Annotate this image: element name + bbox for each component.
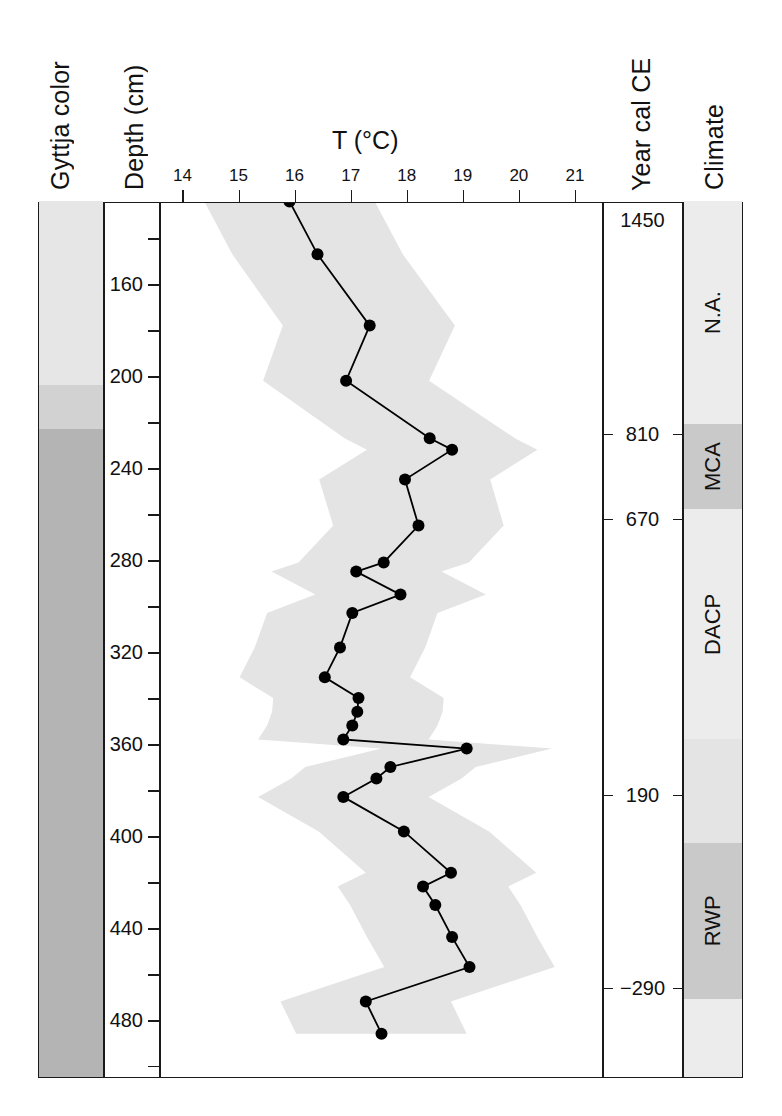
temperature-tick xyxy=(407,190,409,202)
temperature-tick xyxy=(351,190,353,202)
climate-band xyxy=(684,739,742,842)
temperature-data-point xyxy=(360,996,372,1008)
depth-minor-tick xyxy=(148,330,159,332)
temperature-data-point xyxy=(424,432,436,444)
climate-band-label: MCA xyxy=(684,424,742,509)
gyttja-color-panel xyxy=(38,202,104,1078)
temperature-tick-label: 16 xyxy=(285,166,304,186)
year-cal-ce-panel: 1450810670190−290 xyxy=(603,202,683,1078)
temperature-data-point xyxy=(378,556,390,568)
year-cal-ce-header: Year cal CE xyxy=(627,36,656,191)
depth-minor-tick xyxy=(148,974,159,976)
temperature-data-point xyxy=(346,720,358,732)
temperature-data-point xyxy=(340,375,352,387)
temperature-data-point xyxy=(429,899,441,911)
depth-major-tick xyxy=(148,284,159,286)
temperature-curve-svg xyxy=(161,203,601,1076)
temperature-data-point xyxy=(395,589,407,601)
temperature-data-point xyxy=(351,706,363,718)
uncertainty-band xyxy=(204,203,554,1034)
climate-header: Climate xyxy=(700,105,729,190)
depth-header: Depth (cm) xyxy=(120,40,149,190)
depth-axis-panel: 160200240280320360400440480 xyxy=(104,202,160,1078)
year-label: −290 xyxy=(604,976,681,999)
temperature-tick xyxy=(239,190,241,202)
climate-panel: N.A.MCADACPRWP xyxy=(683,202,743,1078)
temperature-data-point xyxy=(350,566,362,578)
depth-minor-tick xyxy=(148,238,159,240)
depth-major-tick xyxy=(148,468,159,470)
temperature-tick-label: 19 xyxy=(453,166,472,186)
temperature-data-point xyxy=(370,773,382,785)
depth-tick-label: 280 xyxy=(110,549,143,572)
temperature-data-point xyxy=(417,881,429,893)
depth-major-tick xyxy=(148,928,159,930)
temperature-tick xyxy=(182,190,184,202)
temperature-tick xyxy=(575,190,577,202)
depth-major-tick xyxy=(148,836,159,838)
temperature-header: T (°C) xyxy=(332,126,398,155)
temperature-data-point xyxy=(334,641,346,653)
paleotemperature-figure: Gyttja color Depth (cm) T (°C) Year cal … xyxy=(0,0,782,1116)
depth-major-tick xyxy=(148,376,159,378)
depth-major-tick xyxy=(148,1020,159,1022)
temperature-tick-label: 17 xyxy=(341,166,360,186)
temperature-data-point xyxy=(445,867,457,879)
temperature-plot-panel xyxy=(160,202,603,1078)
temperature-data-point xyxy=(337,733,349,745)
climate-band xyxy=(684,999,742,1077)
temperature-tick-label: 18 xyxy=(397,166,416,186)
temperature-data-point xyxy=(413,520,425,532)
depth-tick-label: 480 xyxy=(110,1008,143,1031)
temperature-data-point xyxy=(364,320,376,332)
temperature-data-point xyxy=(461,743,473,755)
depth-tick-label: 240 xyxy=(110,457,143,480)
temperature-data-point xyxy=(346,607,358,619)
temperature-data-point xyxy=(376,1028,388,1040)
temperature-data-point xyxy=(353,692,365,704)
temperature-data-point xyxy=(446,444,458,456)
year-label: 1450 xyxy=(604,208,681,231)
depth-minor-tick xyxy=(148,422,159,424)
depth-major-tick xyxy=(148,744,159,746)
depth-minor-tick xyxy=(148,698,159,700)
temperature-tick-label: 15 xyxy=(229,166,248,186)
gyttja-color-header: Gyttja color xyxy=(46,30,75,190)
gyttja-band xyxy=(39,429,103,1077)
temperature-data-point xyxy=(398,825,410,837)
depth-tick-label: 400 xyxy=(110,824,143,847)
temperature-data-point xyxy=(464,961,476,973)
temperature-tick xyxy=(463,190,465,202)
depth-minor-tick xyxy=(148,1066,159,1068)
depth-tick-label: 160 xyxy=(110,273,143,296)
depth-minor-tick xyxy=(148,606,159,608)
gyttja-band xyxy=(39,201,103,385)
year-label: 190 xyxy=(604,783,681,806)
depth-tick-label: 320 xyxy=(110,641,143,664)
temperature-tick-label: 14 xyxy=(173,166,192,186)
climate-band-label: DACP xyxy=(684,509,742,739)
depth-tick-label: 360 xyxy=(110,733,143,756)
depth-tick-label: 200 xyxy=(110,365,143,388)
temperature-tick xyxy=(519,190,521,202)
temperature-data-point xyxy=(337,791,349,803)
temperature-data-point xyxy=(312,248,324,260)
temperature-data-point xyxy=(399,474,411,486)
climate-band-label: RWP xyxy=(684,843,742,999)
depth-minor-tick xyxy=(148,514,159,516)
temperature-tick xyxy=(295,190,297,202)
depth-minor-tick xyxy=(148,882,159,884)
gyttja-band xyxy=(39,385,103,429)
climate-band-label: N.A. xyxy=(684,201,742,424)
depth-minor-tick xyxy=(148,790,159,792)
temperature-tick-label: 20 xyxy=(509,166,528,186)
temperature-data-point xyxy=(319,671,331,683)
temperature-data-point xyxy=(446,931,458,943)
depth-tick-label: 440 xyxy=(110,916,143,939)
temperature-data-point xyxy=(384,761,396,773)
year-label: 810 xyxy=(604,422,681,445)
temperature-tick-label: 21 xyxy=(565,166,584,186)
depth-major-tick xyxy=(148,652,159,654)
depth-major-tick xyxy=(148,560,159,562)
year-label: 670 xyxy=(604,507,681,530)
